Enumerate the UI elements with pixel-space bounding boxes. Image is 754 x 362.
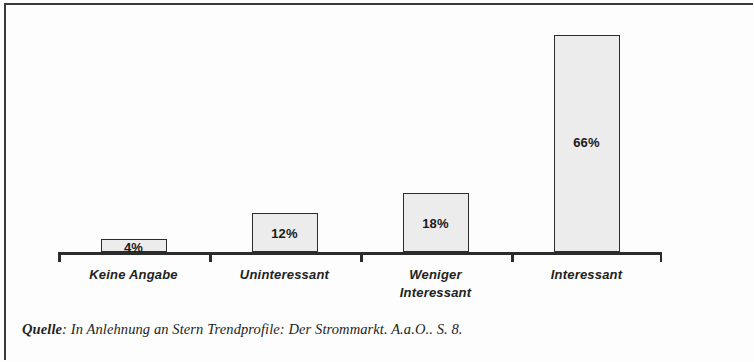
- bar-series: 4% 12% 18% 66%: [58, 22, 662, 252]
- x-axis-tick: [58, 252, 61, 262]
- source-note: Quelle: In Anlehnung an Stern Trendprofi…: [22, 321, 722, 338]
- x-axis-tick: [209, 252, 212, 262]
- bar-value-interessant: 66%: [555, 136, 619, 149]
- x-axis-tick: [660, 252, 663, 262]
- x-axis-label-slot-1: Uninteressant: [209, 266, 360, 301]
- category-label-uninteressant: Uninteressant: [209, 266, 360, 284]
- x-axis-label-slot-0: Keine Angabe: [58, 266, 209, 301]
- category-label-interessant: Interessant: [511, 266, 662, 284]
- chart-plot-area: 4% 12% 18% 66%: [58, 22, 662, 252]
- bar-keine-angabe: 4%: [101, 239, 167, 252]
- bar-slot-keine-angabe: 4%: [58, 22, 209, 252]
- bar-value-weniger-interessant: 18%: [404, 217, 468, 230]
- category-label-weniger-interessant: WenigerInteressant: [360, 266, 511, 301]
- x-axis-tick: [360, 252, 363, 262]
- bar-interessant: 66%: [554, 35, 620, 252]
- x-axis-label-slot-3: Interessant: [511, 266, 662, 301]
- bar-uninteressant: 12%: [252, 213, 318, 252]
- bar-slot-uninteressant: 12%: [209, 22, 360, 252]
- x-axis-labels: Keine Angabe Uninteressant WenigerIntere…: [58, 266, 662, 301]
- category-label-keine-angabe: Keine Angabe: [58, 266, 209, 284]
- source-note-label: Quelle: [22, 321, 62, 337]
- bar-weniger-interessant: 18%: [403, 193, 469, 252]
- x-axis-tick: [511, 252, 514, 262]
- source-note-text: : In Anlehnung an Stern Trendprofile: De…: [62, 321, 462, 337]
- bar-slot-interessant: 66%: [511, 22, 662, 252]
- x-axis-label-slot-2: WenigerInteressant: [360, 266, 511, 301]
- bar-slot-weniger-interessant: 18%: [360, 22, 511, 252]
- bar-value-uninteressant: 12%: [253, 227, 317, 240]
